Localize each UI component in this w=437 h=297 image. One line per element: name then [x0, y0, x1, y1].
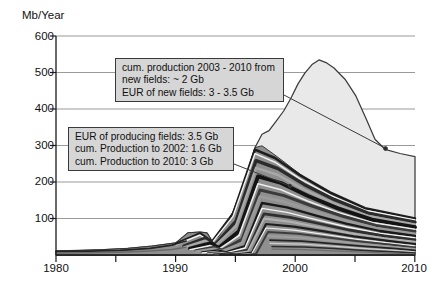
annotation-box-producing-fields: EUR of producing fields: 3.5 Gb cum. Pro… [68, 127, 234, 171]
x-axis-ticks [56, 255, 415, 262]
annotation-new-fields-line-2: new fields: ~ 2 Gb [122, 74, 278, 86]
leader-dot-producing-fields [288, 184, 291, 187]
leader-dot-new-fields [384, 147, 388, 151]
y-axis-ticks [50, 36, 56, 219]
annotation-producing-fields-line-1: EUR of producing fields: 3.5 Gb [75, 131, 228, 143]
annotation-new-fields-line-3: EUR of new fields: 3 - 3.5 Gb [122, 87, 278, 99]
annotation-producing-fields-line-3: cum. Production to 2010: 3 Gb [75, 156, 228, 168]
annotation-box-new-fields: cum. production 2003 - 2010 from new fie… [115, 58, 284, 102]
chart-figure: Mb/Year 600 500 400 300 200 100 1980 199… [0, 0, 437, 297]
annotation-producing-fields-line-2: cum. Production to 2002: 1.6 Gb [75, 143, 228, 155]
annotation-new-fields-line-1: cum. production 2003 - 2010 from [122, 62, 278, 74]
